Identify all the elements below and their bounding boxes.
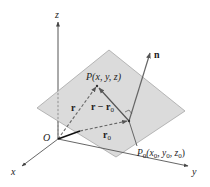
x-axis — [22, 139, 58, 166]
point-P — [96, 85, 98, 87]
plane — [37, 50, 185, 157]
y-axis-label: y — [191, 166, 197, 177]
label-P0: P0(x0, y0, z0) — [136, 148, 185, 160]
x-axis-label: x — [10, 166, 16, 177]
label-n: n — [154, 49, 160, 60]
label-r: r — [71, 102, 76, 113]
origin-label: O — [43, 132, 50, 143]
point-P0 — [128, 120, 130, 122]
label-P: P(x, y, z) — [85, 71, 122, 83]
z-axis-label: z — [54, 9, 59, 20]
plane-normal-diagram: z x y O P(x, y, z) P0(x0, y0, z0) r r − … — [0, 0, 210, 187]
